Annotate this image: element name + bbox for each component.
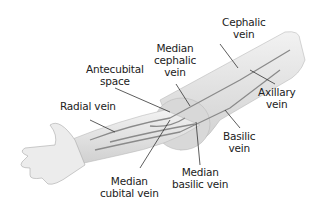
label-line: Median xyxy=(154,42,196,54)
arm-veins-diagram: Cephalic vein Median cephalic vein Antec… xyxy=(0,0,317,213)
label-line: Cephalic xyxy=(222,16,266,28)
label-line: Median xyxy=(100,175,159,187)
label-line: vein xyxy=(258,98,296,110)
label-cephalic-vein: Cephalic vein xyxy=(222,16,266,40)
label-antecubital-space: Antecubital space xyxy=(86,63,144,87)
label-line: basilic vein xyxy=(172,178,228,190)
label-axillary-vein: Axillary vein xyxy=(258,86,296,110)
label-line: vein xyxy=(223,142,255,154)
label-median-basilic-vein: Median basilic vein xyxy=(172,166,228,190)
label-line: space xyxy=(86,75,144,87)
label-line: Basilic xyxy=(223,130,255,142)
label-line: cephalic xyxy=(154,54,196,66)
label-line: vein xyxy=(154,66,196,78)
label-line: Axillary xyxy=(258,86,296,98)
label-median-cubital-vein: Median cubital vein xyxy=(100,175,159,199)
label-line: cubital vein xyxy=(100,187,159,199)
label-median-cephalic-vein: Median cephalic vein xyxy=(154,42,196,78)
label-line: vein xyxy=(222,28,266,40)
label-line: Median xyxy=(172,166,228,178)
label-line: Radial vein xyxy=(60,100,116,112)
label-radial-vein: Radial vein xyxy=(60,100,116,112)
label-basilic-vein: Basilic vein xyxy=(223,130,255,154)
label-line: Antecubital xyxy=(86,63,144,75)
